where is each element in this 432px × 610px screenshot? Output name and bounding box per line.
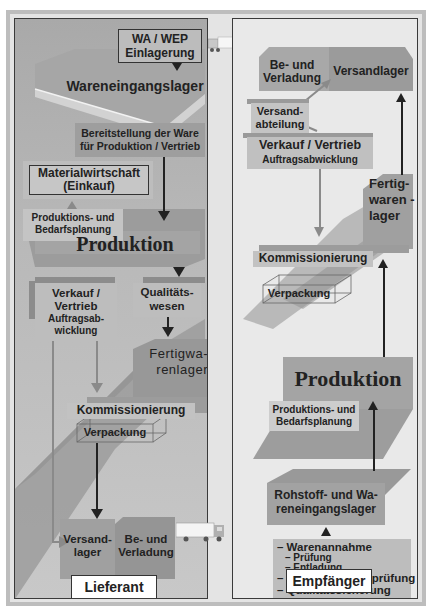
verkauf-line1: Verkauf / Vertrieb <box>247 139 373 153</box>
produktion-label: Produktion <box>55 233 195 255</box>
kommissionierung-label: Kommissionierung <box>253 252 373 265</box>
verkauf-line2: Auftragsabwicklung <box>247 154 373 165</box>
arrow-up-icon <box>396 93 406 102</box>
versandabteilung-line1: Versand- <box>251 105 309 117</box>
arrow-down-icon <box>314 227 324 237</box>
fertigwarenlager-line2: renlager <box>140 363 208 377</box>
fertigwarenlager-line3: lager <box>369 209 413 223</box>
arrow-down-icon <box>158 211 170 221</box>
flow-line <box>383 265 385 357</box>
verladung-line2: Verladung <box>259 72 325 85</box>
verkauf-line2: Vertrieb <box>35 300 117 313</box>
arrow-down-icon <box>173 267 185 277</box>
verkauf-box: Verkauf / Vertrieb Auftragsab- wicklung <box>35 283 117 341</box>
verkauf-line1: Verkauf / <box>35 287 117 300</box>
wareneingangslager-label: Wareneingangslager <box>65 79 205 94</box>
arrow-up-icon <box>378 259 388 268</box>
supplier-label: Lieferant <box>71 575 157 599</box>
versandlager-label: Versandlager <box>329 65 413 78</box>
flow-line <box>373 407 375 471</box>
fertigwarenlager-line2: waren - <box>369 193 417 207</box>
arrow-down-icon <box>91 383 103 393</box>
produktionsplanung-line1: Produktions- und <box>269 404 359 415</box>
fertigwarenlager-line1: Fertigwa- <box>140 347 208 361</box>
verladung-line1: Be- und <box>115 533 177 546</box>
arrow-up-icon <box>368 401 378 410</box>
verpackung-label: Verpackung <box>77 426 153 438</box>
versandlager-line1: Versand- <box>60 533 115 546</box>
materialwirtschaft-box: Materialwirtschaft (Einkauf) <box>29 165 149 195</box>
wa-wep-box: WA / WEP Einlagerung <box>118 29 202 63</box>
rohstofflager-box: Rohstoff- und Wa- reneingangslager <box>267 483 385 525</box>
flow-line <box>319 169 321 231</box>
flow-line <box>96 443 98 511</box>
kommissionierung-box: Kommissionierung <box>67 403 195 419</box>
kommissionierung-box: Kommissionierung <box>253 251 373 267</box>
produktion-label: Produktion <box>283 367 413 391</box>
verkauf-line4: wicklung <box>35 325 117 336</box>
versandlager-line2: lager <box>60 546 115 559</box>
verladung-line2: Verladung <box>115 546 177 559</box>
arrow-down-icon <box>162 327 174 337</box>
produktionsplanung-line1: Produktions- und <box>23 212 123 223</box>
einlagerung-label: Einlagerung <box>119 47 201 60</box>
flow-line <box>163 157 165 213</box>
produktionsplanung-line2: Bedarfsplanung <box>269 416 359 427</box>
produktionsplanung-box: Produktions- und Bedarfsplanung <box>269 401 359 431</box>
verpackung-label: Verpackung <box>263 287 335 299</box>
wa-wep-label: WA / WEP <box>119 33 201 46</box>
einkauf-label: (Einkauf) <box>30 180 148 193</box>
bereitstellung-line2: für Produktion / Vertrieb <box>75 141 205 153</box>
truck-icon <box>176 520 226 546</box>
verkauf-box: Verkauf / Vertrieb Auftragsabwicklung <box>247 137 373 169</box>
arrow-down-icon <box>172 63 182 71</box>
rohstofflager-line1: Rohstoff- und Wa- <box>267 489 385 502</box>
flow-line <box>52 341 54 543</box>
rohstofflager-line2: reneingangslager <box>267 503 385 516</box>
arrow-down-icon <box>91 509 103 519</box>
recipient-panel: Be- und Verladung Versandlager Versand- … <box>232 18 418 599</box>
flow-line <box>96 341 98 387</box>
kommissionierung-label: Kommissionierung <box>67 404 195 417</box>
arrow-up-icon <box>321 527 331 536</box>
versandabteilung-line2: abteilung <box>251 118 309 130</box>
flow-line <box>401 99 403 175</box>
qualitaet-line2: wesen <box>133 300 201 313</box>
bereitstellung-box: Bereitstellung der Ware für Produktion /… <box>75 123 205 157</box>
verkauf-line3: Auftragsab- <box>35 313 117 324</box>
qualitaetswesen-box: Qualitäts- wesen <box>133 283 201 317</box>
versandabteilung-box: Versand- abteilung <box>251 103 309 133</box>
bereitstellung-line1: Bereitstellung der Ware <box>75 128 205 140</box>
supplier-panel: WA / WEP Einlagerung Wareneingangslager … <box>14 18 208 599</box>
qualitaet-line1: Qualitäts- <box>133 286 201 299</box>
fertigwarenlager-line1: Fertig- <box>369 177 413 191</box>
arrow-up-icon <box>67 201 77 209</box>
recipient-label: Empfänger <box>286 569 372 593</box>
